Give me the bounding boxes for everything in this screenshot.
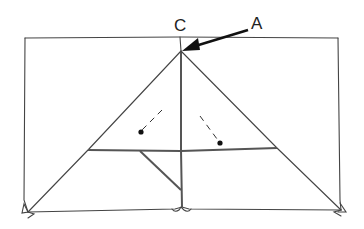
left-dot-marker [138,129,143,134]
right-guide [200,116,223,146]
right-dot-marker [217,140,222,145]
label-c: C [174,16,186,35]
top-center-crease [180,37,181,51]
origami-diagram: C A [0,0,364,229]
left-corner-mark [22,204,34,218]
label-a: A [251,14,263,33]
center-crease [181,51,182,207]
right-diagonal-fold [181,51,341,210]
horizontal-fold [88,148,277,151]
left-diagonal-fold [28,51,181,212]
left-guide [138,110,162,135]
arrow-icon [182,30,248,51]
inner-flap-fold [140,151,181,190]
